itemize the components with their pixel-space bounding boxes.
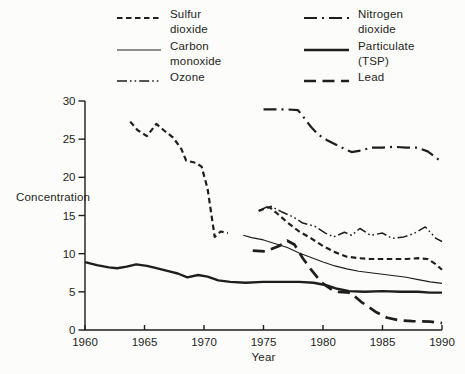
series-particulate-tsp [85, 262, 442, 293]
x-tick-label: 1980 [310, 336, 336, 348]
x-tick-label: 1975 [251, 336, 277, 348]
series-carbon-monoxide [243, 235, 442, 283]
y-tick-label: 10 [63, 248, 76, 260]
axes [85, 101, 442, 330]
x-tick-label: 1990 [429, 336, 455, 348]
y-tick-label: 5 [69, 286, 75, 298]
x-tick-label: 1965 [132, 336, 158, 348]
y-tick-label: 30 [63, 95, 76, 107]
pollution-trends-chart: 0510152025301960196519701975198019851990 [0, 0, 465, 374]
pollution-trends-figure: Sulfur dioxide Carbon monoxide Ozone Nit… [0, 0, 465, 374]
y-tick-label: 20 [63, 171, 76, 183]
y-tick-label: 15 [63, 210, 76, 222]
x-tick-label: 1970 [191, 336, 217, 348]
x-tick-label: 1985 [370, 336, 396, 348]
y-tick-label: 0 [69, 324, 75, 336]
series-sulfur-dioxide [259, 207, 442, 270]
x-tick-label: 1960 [72, 336, 98, 348]
series-sulfur-dioxide [130, 122, 228, 237]
series-nitrogen-dioxide [264, 109, 443, 162]
y-tick-label: 25 [63, 133, 76, 145]
series-ozone [259, 206, 442, 242]
